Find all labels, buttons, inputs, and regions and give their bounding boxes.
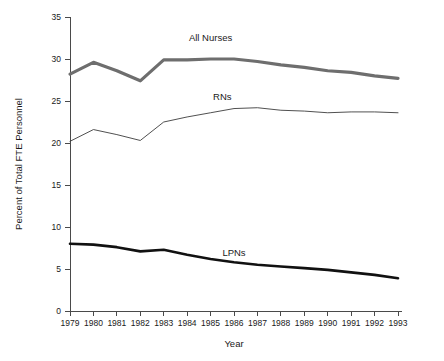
y-tick-label: 10 [52, 222, 62, 232]
x-tick-label: 1986 [225, 318, 244, 328]
x-tick-label: 1988 [271, 318, 290, 328]
series-label-lpns: LPNs [222, 247, 245, 258]
x-tick-label: 1992 [365, 318, 384, 328]
x-tick-label: 1989 [295, 318, 314, 328]
x-tick-label: 1979 [61, 318, 80, 328]
x-tick-label: 1981 [107, 318, 126, 328]
y-tick-label: 15 [52, 180, 62, 190]
series-line-rns [70, 108, 398, 142]
series-label-all-nurses: All Nurses [189, 32, 233, 43]
y-axis-title: Percent of Total FTE Personnel [13, 98, 24, 230]
x-tick-label: 1983 [154, 318, 173, 328]
x-tick-label: 1985 [201, 318, 220, 328]
series-line-all-nurses [70, 59, 398, 81]
y-tick-label: 25 [52, 96, 62, 106]
x-tick-label: 1993 [389, 318, 408, 328]
y-tick-label: 5 [56, 264, 61, 274]
axis-lines [70, 17, 402, 311]
x-tick-label: 1984 [178, 318, 197, 328]
series-labels: All NursesRNsLPNs [189, 32, 246, 258]
data-series [70, 59, 398, 278]
x-axis-title: Year [224, 338, 243, 349]
series-label-rns: RNs [213, 91, 232, 102]
y-tick-label: 35 [52, 12, 62, 22]
chart-container: 0510152025303519791980198119821983198419… [0, 0, 444, 361]
y-tick-label: 30 [52, 54, 62, 64]
x-tick-label: 1987 [248, 318, 267, 328]
x-tick-label: 1980 [84, 318, 103, 328]
x-tick-label: 1982 [131, 318, 150, 328]
y-tick-label: 0 [56, 306, 61, 316]
x-tick-label: 1991 [342, 318, 361, 328]
y-tick-label: 20 [52, 138, 62, 148]
line-chart: 0510152025303519791980198119821983198419… [0, 0, 444, 361]
x-tick-label: 1990 [318, 318, 337, 328]
